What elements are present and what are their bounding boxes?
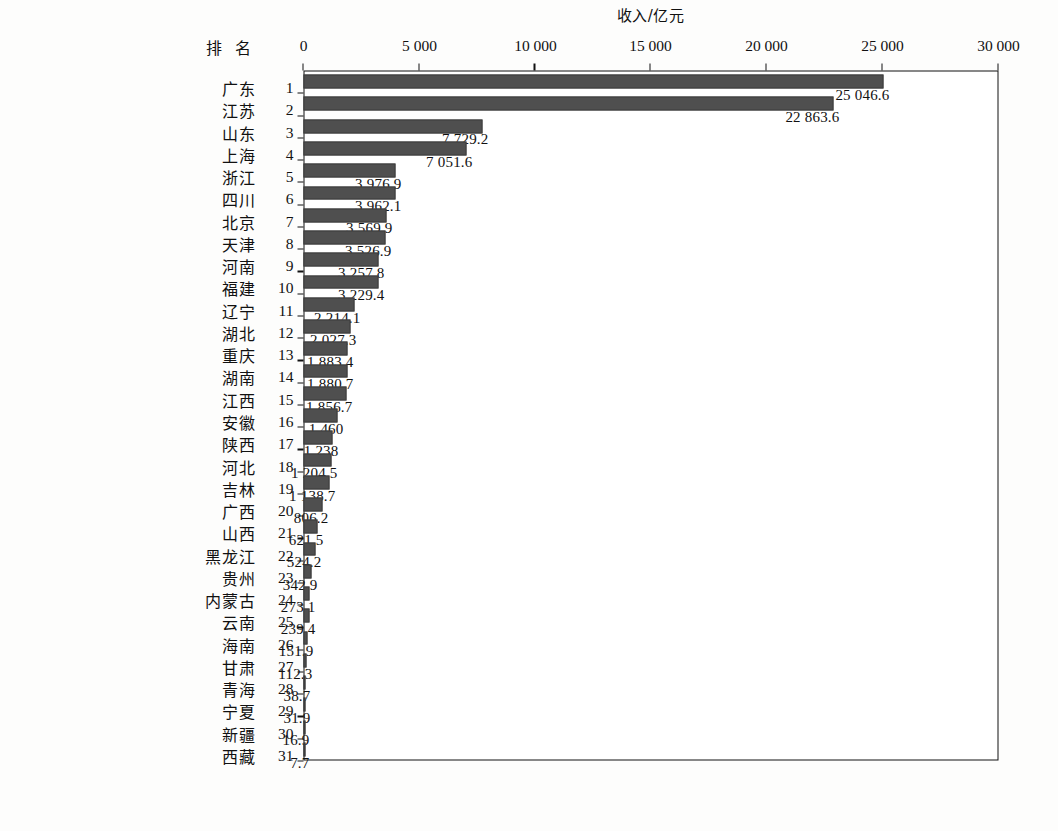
category-tick [297,404,303,405]
rank-label-21: 21 [278,523,294,541]
category-label-天津: 天津 [221,231,255,255]
category-tick [297,693,303,694]
value-tick-label: 5 000 [401,36,436,54]
category-label-甘肃: 甘肃 [221,654,255,678]
category-tick [297,582,303,583]
bar-value-label: 25 046.6 [835,87,889,102]
value-tick [881,63,882,70]
category-tick [297,537,303,538]
category-tick [297,159,303,160]
category-tick [297,293,303,294]
value-tick-label: 25 000 [861,36,904,54]
value-tick-label: 30 000 [977,36,1020,54]
category-tick [297,493,303,494]
value-tick-label: 20 000 [745,36,788,54]
bar-value-label: 7 051.6 [426,154,472,169]
category-label-河南: 河南 [221,253,255,277]
rank-label-14: 14 [278,367,294,385]
category-label-湖北: 湖北 [221,320,255,344]
category-label-福建: 福建 [221,275,255,299]
category-tick [297,760,303,761]
category-tick [297,604,303,605]
value-tick [649,63,650,70]
value-axis-title: 收入/亿元 [617,3,685,24]
chart-bars-layer: 25 046.622 863.67 729.27 051.63 976.93 9… [303,70,998,760]
category-label-内蒙古: 内蒙古 [204,587,255,611]
bar-江苏 [303,96,833,110]
rank-label-18: 18 [278,457,294,475]
category-tick [297,359,303,360]
category-tick [297,448,303,449]
category-tick [297,515,303,516]
category-label-海南: 海南 [221,632,255,656]
category-tick [297,626,303,627]
rank-label-30: 30 [278,724,294,742]
category-label-新疆: 新疆 [221,721,255,745]
category-label-浙江: 浙江 [221,164,255,188]
category-label-山东: 山东 [221,120,255,144]
value-tick [302,63,303,70]
rank-label-29: 29 [278,701,294,719]
category-label-广西: 广西 [221,498,255,522]
bar-广东 [303,74,883,88]
category-tick [297,92,303,93]
category-tick [297,181,303,182]
rank-label-10: 10 [278,278,294,296]
category-label-贵州: 贵州 [221,565,255,589]
category-label-云南: 云南 [221,609,255,633]
category-label-江西: 江西 [221,387,255,411]
category-tick [297,337,303,338]
category-tick [297,382,303,383]
rank-label-25: 25 [278,612,294,630]
category-tick [297,204,303,205]
category-label-河北: 河北 [221,454,255,478]
value-tick [533,63,534,70]
category-tick [297,649,303,650]
rank-label-15: 15 [278,390,294,408]
rank-label-1: 1 [285,78,293,96]
rank-label-27: 27 [278,657,294,675]
rank-label-13: 13 [278,345,294,363]
rank-label-19: 19 [278,479,294,497]
rank-label-2: 2 [285,100,293,118]
category-label-西藏: 西藏 [221,743,255,767]
rank-label-22: 22 [278,546,294,564]
category-tick [297,715,303,716]
bar-value-label: 22 863.6 [785,109,839,124]
value-tick-label: 10 000 [513,36,556,54]
rank-label-26: 26 [278,635,294,653]
category-tick [297,426,303,427]
category-label-四川: 四川 [221,186,255,210]
rank-label-9: 9 [285,256,293,274]
page-canvas: 25 046.622 863.67 729.27 051.63 976.93 9… [0,0,1058,831]
category-tick [297,671,303,672]
category-label-宁夏: 宁夏 [221,698,255,722]
rank-label-8: 8 [285,234,293,252]
category-label-上海: 上海 [221,142,255,166]
category-label-安徽: 安徽 [221,409,255,433]
category-tick [297,471,303,472]
category-label-吉林: 吉林 [221,476,255,500]
rank-label-11: 11 [278,301,293,319]
rank-label-7: 7 [285,212,293,230]
category-label-江苏: 江苏 [221,97,255,121]
rank-label-6: 6 [285,189,293,207]
category-tick [297,226,303,227]
rank-axis-header: 排 名 [206,34,255,58]
category-label-重庆: 重庆 [221,342,255,366]
category-label-青海: 青海 [221,676,255,700]
category-label-山西: 山西 [221,520,255,544]
category-tick [297,137,303,138]
rank-label-23: 23 [278,568,294,586]
rotated-figure-wrapper: 25 046.622 863.67 729.27 051.63 976.93 9… [0,0,1058,831]
rank-label-4: 4 [285,145,293,163]
category-tick [297,315,303,316]
category-label-黑龙江: 黑龙江 [204,543,255,567]
rank-label-31: 31 [278,746,294,764]
category-label-陕西: 陕西 [221,431,255,455]
category-tick [297,738,303,739]
category-tick [297,270,303,271]
value-tick [418,63,419,70]
value-tick [997,63,998,70]
rank-label-5: 5 [285,167,293,185]
